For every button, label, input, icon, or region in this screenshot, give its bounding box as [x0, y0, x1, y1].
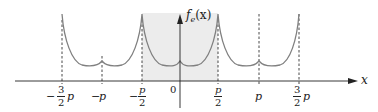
periodic-function-figure: fe(x) x 0 − 32 p − p − p2 p2 p 32 p [0, 0, 378, 112]
tick-neg-three-halves-p: 32 [57, 85, 65, 108]
tick-neg-half-p: p2 [138, 85, 146, 108]
y-axis-label: fe(x) [186, 9, 211, 24]
tick-three-halves-p: 32 [293, 85, 301, 108]
origin-label: 0 [170, 85, 176, 95]
x-axis-label: x [361, 74, 368, 86]
tick-half-p: p2 [214, 85, 222, 108]
tick-minus-sign: − [46, 91, 55, 102]
tick-suffix-p: p [67, 91, 74, 102]
x-axis-arrow-icon [348, 78, 358, 84]
tick-suffix-p: p [303, 91, 310, 102]
tick-p: p [255, 91, 262, 102]
tick-minus-sign: − [129, 91, 138, 102]
tick-neg-p: p [99, 91, 106, 102]
